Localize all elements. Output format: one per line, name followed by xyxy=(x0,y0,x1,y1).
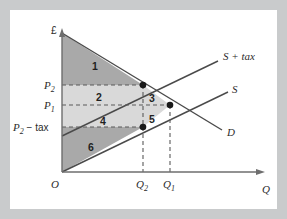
region-label-6: 6 xyxy=(88,141,94,153)
price-tick-p2: P2 xyxy=(43,79,55,94)
price-tick-p1: P1 xyxy=(43,99,55,114)
supply-demand-chart: £ Q O P2 P1 P2 − tax Q2 Q1 xyxy=(10,10,277,209)
region-label-1: 1 xyxy=(92,60,98,72)
svg-text:P2 − tax: P2 − tax xyxy=(12,121,48,136)
x-axis xyxy=(62,169,265,175)
region-label-5: 5 xyxy=(149,113,155,125)
svg-text:Q2: Q2 xyxy=(136,178,148,193)
equilibrium-point-before-tax xyxy=(167,102,174,109)
curve-label-s-plus-tax: S + tax xyxy=(223,50,255,62)
quantity-tick-q2: Q2 xyxy=(136,178,148,193)
y-axis-label: £ xyxy=(51,25,57,36)
x-axis-label: Q xyxy=(262,183,270,195)
net-of-tax-point xyxy=(140,124,147,131)
svg-text:P2: P2 xyxy=(43,79,55,94)
region-label-4: 4 xyxy=(100,115,106,127)
origin-label: O xyxy=(51,178,59,190)
price-tick-p2-minus-tax: P2 − tax xyxy=(12,121,48,136)
curve-label-s: S xyxy=(232,83,238,95)
equilibrium-point-after-tax xyxy=(140,82,147,89)
figure-frame: £ Q O P2 P1 P2 − tax Q2 Q1 xyxy=(10,10,277,209)
svg-text:Q1: Q1 xyxy=(163,178,175,193)
region-2-shape xyxy=(62,85,143,105)
region-label-2: 2 xyxy=(96,91,102,103)
svg-text:P1: P1 xyxy=(43,99,55,114)
curve-label-d: D xyxy=(226,126,235,138)
region-6-shape xyxy=(62,127,143,172)
region-5-shape xyxy=(143,105,170,127)
region-label-3: 3 xyxy=(149,92,155,104)
quantity-tick-q1: Q1 xyxy=(163,178,175,193)
